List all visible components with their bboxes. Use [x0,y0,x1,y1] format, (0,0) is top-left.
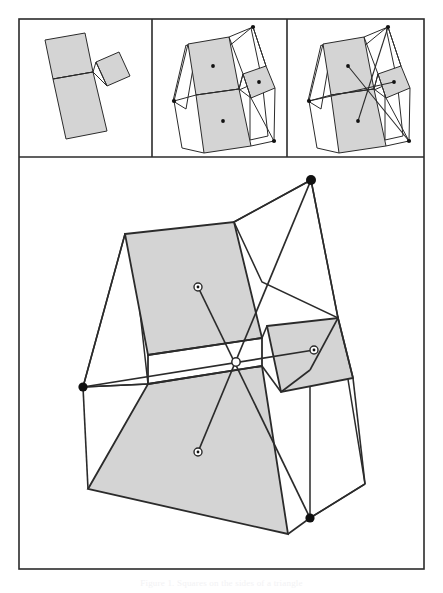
center-bottom-square-marker [194,448,202,456]
p2-outer-vertex-bottom-right [272,139,276,143]
p3-center-bottom-square [356,119,360,123]
center-small-square-marker [310,346,318,354]
p3-outer-vertex-left [307,99,311,103]
p1-square-upper [45,33,93,79]
p3-center-upper-square [346,64,350,68]
p2-center-bottom-square [221,119,225,123]
p2-center-upper-square [211,64,215,68]
concurrency-point-marker [232,358,240,366]
p3-outer-vertex-bottom-right [407,139,411,143]
outer-vertex-left-dot [78,382,87,391]
outer-vertex-top-dot [306,175,316,185]
p3-center-right-square [392,80,396,84]
outer-vertex-bottom-right-dot [305,513,314,522]
center-large-square-marker [194,283,202,291]
p2-outer-vertex-left [172,99,176,103]
geometry-figure [0,0,443,593]
figure-caption: Figure 1. Squares on the sides of a tria… [0,578,443,588]
p2-center-right-square [257,80,261,84]
p3-outer-vertex-top [386,25,390,29]
p2-outer-vertex-top [251,25,255,29]
